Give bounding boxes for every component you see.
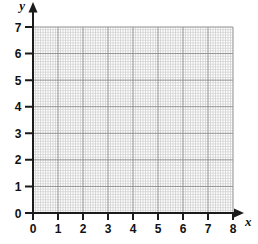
- y-tick-label: 0: [15, 207, 22, 221]
- x-tick-label: 8: [230, 222, 237, 236]
- y-tick-label: 7: [15, 21, 22, 35]
- x-axis-label: x: [244, 214, 252, 229]
- y-tick-label: 1: [15, 180, 22, 194]
- x-tick-label: 7: [205, 222, 212, 236]
- x-tick-label: 1: [55, 222, 62, 236]
- y-axis-label: y: [17, 0, 25, 13]
- x-tick-label: 4: [130, 222, 137, 236]
- x-tick-label: 0: [30, 222, 37, 236]
- graph-paper-figure: 01234567801234567yx: [0, 0, 258, 244]
- y-tick-label: 2: [15, 153, 22, 167]
- x-tick-label: 5: [155, 222, 162, 236]
- y-tick-label: 6: [15, 47, 22, 61]
- x-axis-arrow-icon: [234, 209, 244, 218]
- y-tick-label: 5: [15, 74, 22, 88]
- x-tick-label: 2: [80, 222, 87, 236]
- x-tick-label: 6: [180, 222, 187, 236]
- y-tick-label: 4: [15, 100, 22, 114]
- y-axis-arrow-icon: [29, 2, 38, 13]
- y-tick-label: 3: [15, 127, 22, 141]
- x-tick-label: 3: [105, 222, 112, 236]
- coordinate-plane: 01234567801234567yx: [0, 0, 258, 244]
